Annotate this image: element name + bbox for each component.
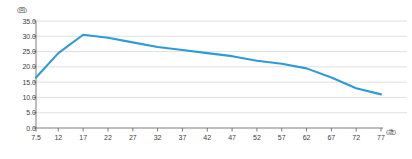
x-axis-tick-label: 22 xyxy=(104,134,112,141)
x-axis-tick-label: 27 xyxy=(129,134,137,141)
x-axis-tick-label: 17 xyxy=(79,134,87,141)
x-axis-tick-label: 12 xyxy=(54,134,62,141)
x-axis-tick-label: 67 xyxy=(327,134,335,141)
x-axis-tick-label: 62 xyxy=(303,134,311,141)
x-axis-tick-labels: 7.51217222732374247525762677277 xyxy=(0,0,412,159)
x-axis-tick-label: 57 xyxy=(278,134,286,141)
x-axis-tick-label: 52 xyxy=(253,134,261,141)
x-axis-tick-label: 37 xyxy=(179,134,187,141)
x-axis-unit-label: (歳) xyxy=(386,127,396,136)
line-chart: 0.05.010.015.020.025.030.035.0 7.5121722… xyxy=(0,0,412,159)
y-axis-unit-label: (回) xyxy=(17,5,27,14)
x-axis-tick-label: 77 xyxy=(377,134,385,141)
x-axis-tick-label: 72 xyxy=(352,134,360,141)
x-axis-tick-label: 47 xyxy=(228,134,236,141)
x-axis-tick-label: 32 xyxy=(154,134,162,141)
x-axis-tick-label: 7.5 xyxy=(31,134,41,141)
x-axis-tick-label: 42 xyxy=(203,134,211,141)
